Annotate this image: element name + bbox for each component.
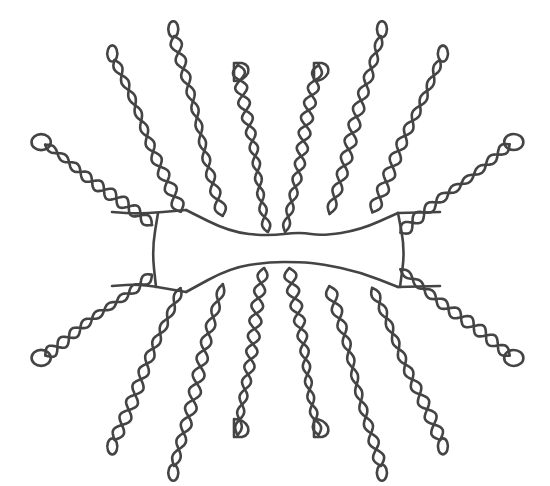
strand-a — [172, 284, 223, 466]
strand-b — [174, 284, 224, 466]
arm-tip-eight — [107, 46, 117, 62]
arm-bottom-7 — [371, 288, 448, 454]
arm-tip-loop — [504, 134, 523, 150]
strand-a — [401, 144, 510, 233]
arm-tip-eight — [438, 46, 448, 62]
arm-tip-eight — [168, 21, 178, 37]
strand-a — [371, 288, 443, 440]
backbone-bottom-segment — [186, 262, 398, 292]
strand-b — [371, 60, 441, 212]
strand-b — [115, 60, 181, 212]
arm-tip-eight — [377, 21, 387, 37]
arm-top-8 — [401, 134, 524, 234]
arm-top-5 — [283, 63, 328, 232]
arm-top-7 — [371, 46, 448, 213]
arm-bottom-8 — [401, 269, 524, 366]
arm-top-2 — [107, 46, 183, 212]
arm-tip-eight — [438, 438, 448, 454]
arm-tip-loop — [32, 350, 51, 366]
arm-bottom-3 — [168, 284, 224, 481]
polymer-diagram — [0, 0, 550, 486]
arms-group — [32, 21, 524, 481]
arm-bottom-1 — [32, 274, 152, 366]
strand-a — [401, 269, 510, 356]
backbone-left-arc — [153, 213, 158, 287]
strand-b — [401, 144, 510, 233]
backbone-bottom-segment — [112, 285, 186, 292]
strand-a — [285, 65, 322, 232]
arm-tip-eight — [107, 438, 117, 454]
diagram-canvas — [0, 0, 550, 486]
strand-a — [235, 268, 265, 435]
arm-top-4 — [233, 63, 270, 232]
arm-bottom-5 — [285, 268, 329, 437]
arm-tip-loop — [504, 350, 523, 366]
strand-b — [237, 268, 267, 435]
arm-bottom-2 — [107, 288, 181, 454]
arm-tip-eight — [377, 465, 387, 481]
strand-a — [113, 60, 183, 212]
strand-a — [330, 36, 383, 214]
backbone-loop — [112, 210, 440, 292]
arm-bottom-6 — [326, 286, 387, 481]
strand-b — [401, 269, 510, 355]
arm-tip-eight — [168, 465, 178, 481]
strand-b — [372, 288, 440, 440]
strand-b — [45, 275, 151, 357]
arm-bottom-4 — [234, 268, 267, 437]
strand-b — [328, 36, 381, 214]
strand-b — [113, 288, 182, 440]
strand-a — [45, 274, 151, 355]
arm-tip-loop — [32, 134, 51, 150]
arm-top-1 — [32, 134, 152, 225]
